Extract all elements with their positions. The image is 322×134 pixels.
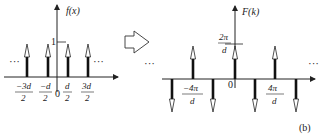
impulse-down bbox=[294, 79, 299, 112]
tick-label: 4π d bbox=[266, 83, 284, 106]
impulse-up bbox=[191, 46, 196, 79]
right-plot: F(k) 2π d bbox=[144, 6, 319, 112]
impulse bbox=[25, 44, 30, 77]
svg-text:−d: −d bbox=[40, 81, 51, 91]
ellipsis-right: ··· bbox=[93, 55, 104, 67]
svg-text:−3d: −3d bbox=[16, 81, 32, 91]
ellipsis-left: ··· bbox=[9, 55, 20, 67]
svg-text:4π: 4π bbox=[268, 83, 278, 93]
tick-label: 3d 2 bbox=[81, 81, 94, 103]
tick-label: −4π d bbox=[182, 83, 203, 106]
impulse bbox=[46, 44, 51, 77]
impulse-up bbox=[233, 46, 238, 79]
svg-text:2: 2 bbox=[43, 93, 48, 103]
ellipsis-left: ··· bbox=[144, 57, 155, 69]
tick-label: −d 2 bbox=[39, 81, 52, 103]
left-origin-label: 0 bbox=[55, 88, 60, 99]
ellipsis-right: ··· bbox=[308, 57, 319, 69]
fourier-transform-arrow-icon bbox=[125, 31, 149, 53]
panel-label: (b) bbox=[299, 122, 311, 134]
impulse bbox=[66, 44, 71, 77]
height-label: 1 bbox=[51, 36, 56, 47]
svg-text:d: d bbox=[65, 81, 70, 91]
impulse-down bbox=[253, 79, 258, 112]
svg-text:2π: 2π bbox=[219, 32, 229, 42]
svg-text:2: 2 bbox=[65, 93, 70, 103]
svg-text:2: 2 bbox=[21, 93, 26, 103]
left-plot: f(x) 1 ··· ··· −3d 2 −d bbox=[4, 5, 118, 103]
svg-text:2: 2 bbox=[85, 93, 90, 103]
svg-text:d: d bbox=[272, 96, 277, 106]
left-y-label: f(x) bbox=[66, 5, 81, 17]
tick-label: −3d 2 bbox=[15, 81, 33, 103]
right-origin-label: 0 bbox=[228, 79, 233, 90]
impulse-up bbox=[273, 46, 278, 79]
impulse bbox=[86, 44, 91, 77]
impulse-down bbox=[170, 79, 175, 112]
svg-text:3d: 3d bbox=[81, 81, 92, 91]
tick-label: d 2 bbox=[63, 81, 72, 103]
svg-text:d: d bbox=[222, 45, 227, 55]
svg-text:−4π: −4π bbox=[183, 83, 199, 93]
fourier-diagram: f(x) 1 ··· ··· −3d 2 −d bbox=[0, 0, 322, 134]
right-y-label: F(k) bbox=[241, 6, 260, 18]
svg-text:d: d bbox=[190, 96, 195, 106]
height-label: 2π d bbox=[218, 32, 231, 55]
impulse-down bbox=[211, 79, 216, 112]
